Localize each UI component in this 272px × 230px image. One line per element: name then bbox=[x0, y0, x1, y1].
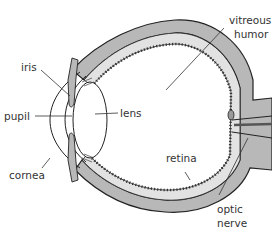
label-nerve: nerve bbox=[217, 217, 247, 229]
lens bbox=[73, 82, 107, 158]
label-vitreous: vitreous bbox=[229, 14, 271, 26]
label-cornea: cornea bbox=[9, 169, 45, 181]
label-pupil: pupil bbox=[4, 110, 30, 122]
label-lens: lens bbox=[120, 107, 142, 119]
label-humor: humor bbox=[234, 28, 268, 40]
label-iris: iris bbox=[21, 61, 37, 73]
label-retina: retina bbox=[166, 152, 197, 164]
label-optic: optic bbox=[217, 203, 243, 215]
